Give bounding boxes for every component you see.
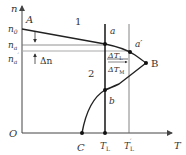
point-a xyxy=(103,42,107,46)
phase-diagram: n T O n0 na na′ TL TL′ A a a′ B b C 1 2 … xyxy=(0,0,186,155)
delta-TL-label: ΔTL xyxy=(107,51,123,61)
point-a-prime xyxy=(128,50,132,54)
label-C: C xyxy=(77,142,85,153)
label-B: B xyxy=(151,58,158,69)
y-axis-label: n xyxy=(11,3,17,14)
na-label: na xyxy=(8,40,18,51)
label-A: A xyxy=(25,14,33,25)
region-1-label: 1 xyxy=(75,16,81,27)
delta-n-label: Δn xyxy=(40,56,52,66)
origin-label: O xyxy=(9,128,17,139)
delta-TM-label: ΔTM xyxy=(107,65,124,75)
label-b: b xyxy=(109,96,115,106)
label-a: a xyxy=(110,26,115,36)
point-B xyxy=(144,61,148,65)
n0-label: n0 xyxy=(8,24,18,35)
label-a-prime: a′ xyxy=(135,39,142,49)
TL-prime-label: TL′ xyxy=(124,137,134,152)
region-2-label: 2 xyxy=(88,68,94,79)
point-TL xyxy=(103,131,107,135)
point-C xyxy=(80,131,84,135)
point-b xyxy=(103,88,107,92)
TL-label: TL xyxy=(100,141,110,152)
na-prime-label: na′ xyxy=(8,51,19,65)
x-axis-label: T xyxy=(174,140,182,151)
